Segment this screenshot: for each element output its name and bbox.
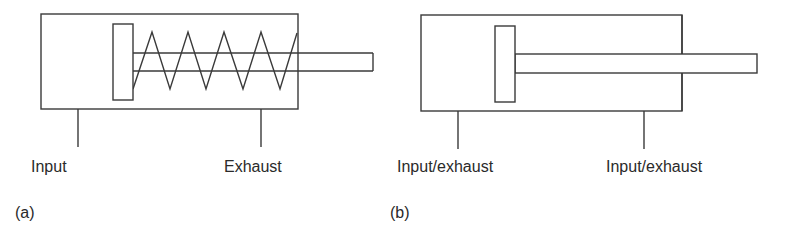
port-label-exhaust: Exhaust	[224, 158, 282, 175]
diagram-a: Input Exhaust (a)	[15, 14, 373, 221]
spring-icon	[133, 32, 297, 89]
caption-a: (a)	[15, 204, 35, 221]
diagram-b: Input/exhaust Input/exhaust (b)	[390, 15, 757, 221]
piston-rod-b	[515, 54, 757, 73]
port-label-left-b: Input/exhaust	[397, 158, 494, 175]
piston-a	[113, 24, 133, 100]
caption-b: (b)	[390, 204, 410, 221]
port-label-right-b: Input/exhaust	[606, 158, 703, 175]
cylinder-body-a	[41, 14, 298, 109]
piston-b	[495, 26, 515, 102]
port-label-input: Input	[31, 158, 67, 175]
